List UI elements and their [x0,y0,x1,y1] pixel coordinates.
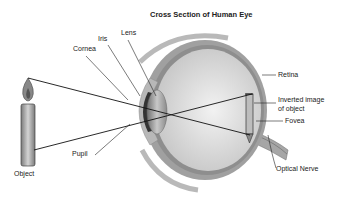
label-fovea: Fovea [285,117,304,125]
label-inverted-image-1: Inverted image [278,96,324,104]
inverted-image [246,94,253,134]
label-optical-nerve: Optical Nerve [276,165,318,173]
candle [21,104,35,166]
lens [147,90,167,134]
label-inverted-image-2: of object [278,105,304,113]
label-iris: Iris [98,35,107,43]
label-pupil: Pupil [72,150,88,158]
label-object: Object [14,170,34,178]
label-retina: Retina [278,71,298,79]
vitreous [155,49,261,171]
leader-cornea [86,56,128,100]
label-cornea: Cornea [73,45,96,53]
leader-iris [108,45,140,96]
leader-lens [128,40,156,96]
leader-pupil [95,124,130,155]
label-lens: Lens [121,29,136,37]
